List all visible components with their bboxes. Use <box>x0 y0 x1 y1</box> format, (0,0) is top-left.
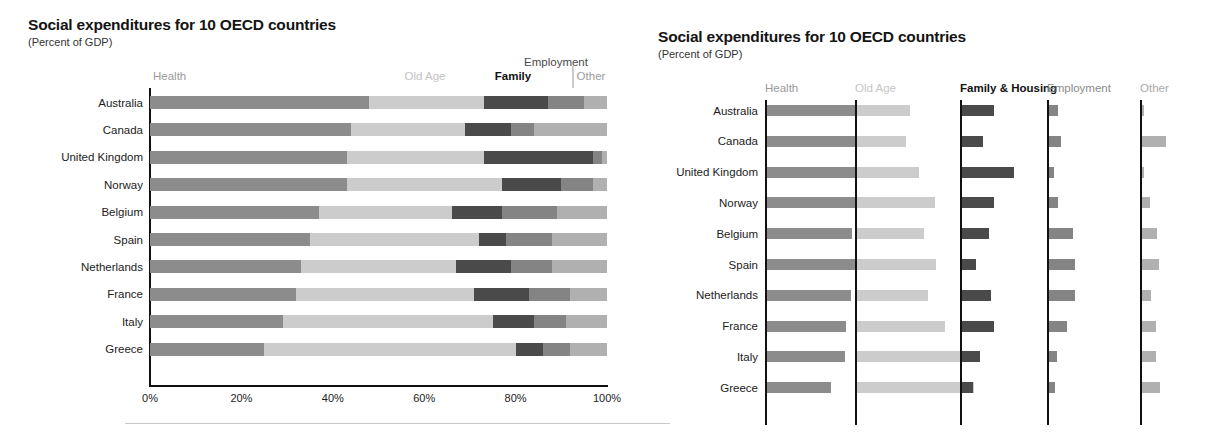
x-tick-label: 40% <box>322 392 344 404</box>
bar-segment-other <box>602 151 607 164</box>
bar-segment-other <box>570 343 607 356</box>
small-multiple-bar <box>1049 136 1061 147</box>
right-category-label: Greece <box>720 382 758 394</box>
small-multiple-bar <box>857 136 906 147</box>
small-multiple-bar <box>1142 351 1156 362</box>
small-multiple-bar <box>767 351 845 362</box>
bar-segment-family <box>516 343 543 356</box>
small-multiple-bar <box>857 167 919 178</box>
left-category-label: Italy <box>122 316 143 328</box>
bar-segment-old-age <box>347 151 484 164</box>
bar-segment-other <box>552 233 607 246</box>
bar-segment-employment <box>543 343 570 356</box>
bar-segment-old-age <box>296 288 474 301</box>
right-category-label: United Kingdom <box>676 166 758 178</box>
x-tick-label: 0% <box>142 392 158 404</box>
small-multiple-bar <box>857 382 974 393</box>
stacked-bar-row <box>150 178 607 191</box>
small-multiple-bar <box>962 167 1014 178</box>
legend-label-old-age: Old Age <box>405 70 446 82</box>
bar-segment-old-age <box>301 260 456 273</box>
stacked-bar-row <box>150 315 607 328</box>
legend-divider-line <box>573 66 574 88</box>
right-category-label: Norway <box>719 197 758 209</box>
bar-segment-employment <box>593 151 602 164</box>
small-multiple-bar <box>1142 290 1151 301</box>
bar-segment-employment <box>511 123 534 136</box>
stacked-bar-row <box>150 96 607 109</box>
bar-segment-family <box>479 233 506 246</box>
small-multiple-bar <box>962 105 994 116</box>
small-multiple-bar <box>962 197 994 208</box>
legend-label-other: Other <box>577 70 606 82</box>
bar-segment-family <box>465 123 511 136</box>
small-multiple-bar <box>1049 197 1058 208</box>
small-multiple-bar <box>1142 105 1144 116</box>
bar-segment-other <box>534 123 607 136</box>
small-multiple-bar <box>857 321 945 332</box>
left-category-label: Belgium <box>101 206 143 218</box>
right-category-label: Spain <box>729 259 758 271</box>
bar-segment-employment <box>561 178 593 191</box>
bar-segment-old-age <box>347 178 502 191</box>
bar-segment-health <box>150 151 347 164</box>
right-category-label: Canada <box>718 135 758 147</box>
small-multiple-bar <box>1142 167 1144 178</box>
left-chart-panel: Social expenditures for 10 OECD countrie… <box>0 0 650 435</box>
small-multiple-bar <box>857 105 910 116</box>
column-header-family-housing: Family & Housing <box>960 82 1057 94</box>
small-multiple-bar <box>962 290 991 301</box>
small-multiple-bar <box>962 382 973 393</box>
left-category-label: Netherlands <box>81 261 143 273</box>
stacked-bar-row <box>150 206 607 219</box>
small-multiple-bar <box>857 351 963 362</box>
bar-segment-other <box>557 206 607 219</box>
column-header-old-age: Old Age <box>855 82 896 94</box>
stacked-bar-row <box>150 151 607 164</box>
bar-segment-other <box>593 178 607 191</box>
x-tick-label: 60% <box>413 392 435 404</box>
bar-segment-other <box>570 288 607 301</box>
small-multiple-bar <box>1142 382 1160 393</box>
right-category-label: France <box>722 320 758 332</box>
column-header-other: Other <box>1140 82 1169 94</box>
x-tick-label: 100% <box>593 392 621 404</box>
left-category-label: Greece <box>105 343 143 355</box>
small-multiple-bar <box>1049 290 1075 301</box>
x-tick-label: 80% <box>505 392 527 404</box>
small-multiple-bar <box>962 351 980 362</box>
small-multiple-bar <box>767 167 861 178</box>
right-category-label: Italy <box>737 351 758 363</box>
bar-segment-health <box>150 260 301 273</box>
x-tick-label: 20% <box>230 392 252 404</box>
bar-segment-employment <box>506 233 552 246</box>
stacked-bar-row <box>150 123 607 136</box>
column-header-employment: Employment <box>1047 82 1111 94</box>
bar-segment-family <box>484 151 594 164</box>
column-header-health: Health <box>765 82 798 94</box>
bar-segment-employment <box>511 260 552 273</box>
small-multiple-bar <box>767 228 852 239</box>
bar-segment-old-age <box>310 233 479 246</box>
left-category-label: Canada <box>103 124 143 136</box>
small-multiple-bar <box>1142 321 1156 332</box>
left-category-label: Spain <box>114 234 143 246</box>
right-category-label: Belgium <box>716 228 758 240</box>
small-multiple-bar <box>1049 351 1057 362</box>
bar-segment-employment <box>529 288 570 301</box>
bar-segment-old-age <box>369 96 483 109</box>
bar-segment-other <box>552 260 607 273</box>
bar-segment-health <box>150 96 369 109</box>
small-multiple-bar <box>767 321 846 332</box>
small-multiple-bar <box>1049 382 1055 393</box>
legend-label-health: Health <box>153 70 186 82</box>
small-multiple-bar <box>1142 228 1157 239</box>
stacked-bar-row <box>150 288 607 301</box>
bar-segment-health <box>150 233 310 246</box>
small-multiple-bar <box>1142 259 1159 270</box>
bar-segment-other <box>566 315 607 328</box>
footer-rule <box>125 423 670 424</box>
right-category-label: Australia <box>713 105 758 117</box>
small-multiple-bar <box>767 259 857 270</box>
right-small-multiples-chart: AustraliaCanadaUnited KingdomNorwayBelgi… <box>650 0 1230 435</box>
